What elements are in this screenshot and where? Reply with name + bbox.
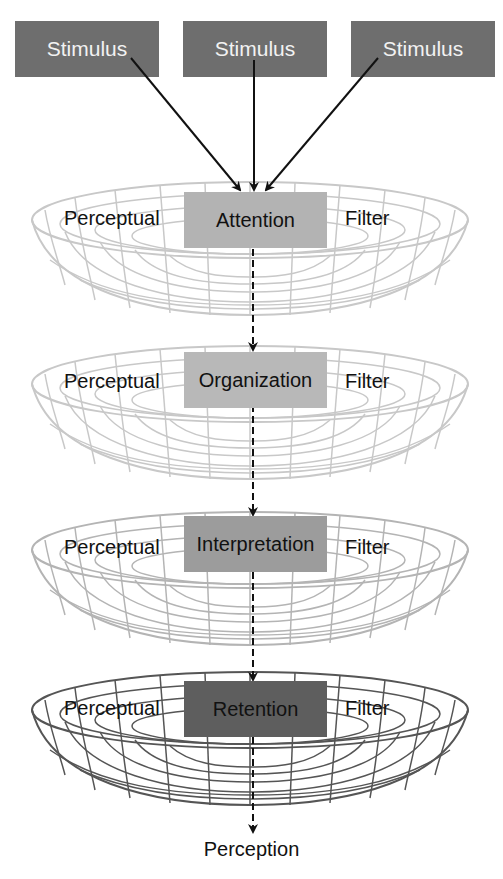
filter-label: Filter — [345, 697, 389, 720]
stimulus-arrow-1 — [131, 58, 240, 190]
stage-label: Attention — [216, 209, 295, 232]
perceptual-label: Perceptual — [64, 536, 160, 559]
stage-box-retention: Retention — [184, 681, 327, 737]
stage-box-interpretation: Interpretation — [184, 516, 327, 572]
stimulus-arrow-3 — [266, 58, 378, 190]
perceptual-label: Perceptual — [64, 370, 160, 393]
perception-output-label: Perception — [0, 838, 503, 861]
perceptual-label: Perceptual — [64, 697, 160, 720]
perceptual-filter-diagram — [0, 0, 503, 879]
filter-label: Filter — [345, 370, 389, 393]
stage-box-attention: Attention — [184, 192, 327, 248]
filter-label: Filter — [345, 207, 389, 230]
filter-label: Filter — [345, 536, 389, 559]
stage-label: Retention — [213, 698, 299, 721]
perceptual-label: Perceptual — [64, 207, 160, 230]
stage-label: Organization — [199, 369, 312, 392]
stage-box-organization: Organization — [184, 352, 327, 408]
stage-label: Interpretation — [197, 533, 315, 556]
